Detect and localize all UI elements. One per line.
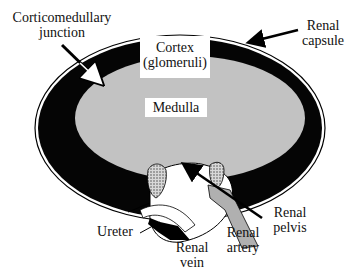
- label-line: Ureter: [97, 224, 133, 239]
- label-medulla: Medulla: [145, 98, 207, 117]
- label-line: junction: [8, 25, 116, 40]
- renal-capsule-arrow: [250, 30, 298, 42]
- label-line: Cortex: [140, 40, 210, 55]
- label-cortex: Cortex (glomeruli): [140, 40, 210, 70]
- label-renal-vein: Renal vein: [168, 240, 216, 270]
- label-line: Medulla: [153, 100, 200, 115]
- label-corticomedullary-junction: Corticomedullary junction: [8, 10, 116, 40]
- label-line: capsule: [298, 33, 348, 48]
- label-line: Corticomedullary: [8, 10, 116, 25]
- label-line: artery: [218, 240, 268, 255]
- label-line: Renal: [218, 225, 268, 240]
- label-line: vein: [168, 255, 216, 270]
- label-line: (glomeruli): [140, 55, 210, 70]
- label-line: pelvis: [265, 220, 315, 235]
- label-ureter: Ureter: [90, 224, 140, 239]
- label-renal-pelvis: Renal pelvis: [265, 205, 315, 235]
- label-line: Renal: [168, 240, 216, 255]
- label-line: Renal: [265, 205, 315, 220]
- label-line: Renal: [298, 18, 348, 33]
- label-renal-capsule: Renal capsule: [298, 18, 348, 48]
- label-renal-artery: Renal artery: [218, 225, 268, 255]
